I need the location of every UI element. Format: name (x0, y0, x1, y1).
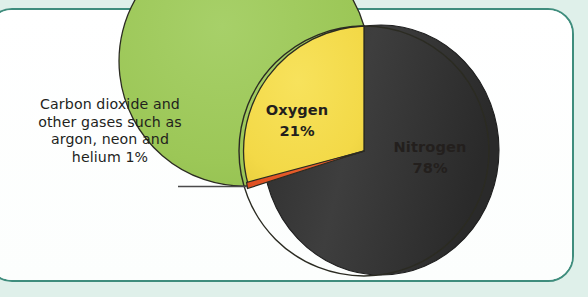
slice-label-nitrogen: Nitrogen 78% (378, 136, 482, 178)
nitrogen-label-value: 78% (378, 157, 482, 178)
callout-line-2: other gases such as (14, 114, 206, 132)
callout-text-other-gases: Carbon dioxide and other gases such as a… (14, 96, 206, 166)
figure-container: Carbon dioxide and other gases such as a… (0, 0, 588, 297)
slice-label-oxygen: Oxygen 21% (255, 99, 339, 141)
callout-line-4: helium 1% (14, 149, 206, 167)
nitrogen-label-name: Nitrogen (378, 136, 482, 157)
oxygen-label-name: Oxygen (255, 99, 339, 120)
oxygen-label-value: 21% (255, 120, 339, 141)
callout-line-1: Carbon dioxide and (14, 96, 206, 114)
callout-line-3: argon, neon and (14, 131, 206, 149)
